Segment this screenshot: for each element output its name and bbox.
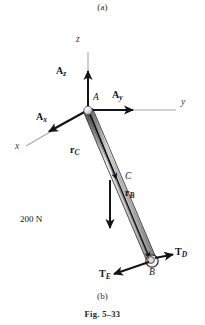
support-joint-A — [84, 106, 92, 114]
force-label-Ay-subscript: y — [119, 93, 122, 102]
point-label-B: B — [149, 268, 155, 278]
rod-edge-right — [90, 109, 155, 261]
point-label-A: A — [93, 93, 99, 103]
tension-label-TD: TD — [175, 247, 187, 258]
TD-arrow — [155, 255, 173, 259]
force-label-Ay: Ay — [112, 90, 123, 101]
z-axis-label: z — [76, 35, 80, 45]
vector-label-rC: rC — [70, 145, 79, 156]
tension-label-TE: TE — [99, 269, 111, 280]
applied-load-label: 200 N — [20, 215, 42, 224]
tension-label-TD-subscript: D — [182, 250, 187, 259]
point-label-C: C — [125, 172, 131, 182]
force-label-Ax: Ax — [36, 112, 47, 123]
joint-A-ball — [84, 106, 92, 114]
force-label-Az: Az — [56, 66, 66, 77]
cable-tension-TD — [155, 255, 173, 259]
TE-arrow — [114, 262, 149, 274]
vector-label-rC-subscript: C — [74, 148, 79, 157]
y-axis-label: y — [181, 98, 185, 108]
x-axis-label: x — [15, 142, 19, 152]
force-label-Az-subscript: z — [63, 69, 66, 78]
reaction-force-Ax — [49, 110, 88, 132]
vector-label-rB-subscript: B — [129, 191, 134, 200]
position-vector-rB — [90, 114, 150, 258]
Ax-arrow — [49, 110, 88, 132]
tension-label-TD-symbol: T — [175, 246, 182, 257]
vector-label-rB: rB — [125, 188, 134, 199]
cable-tension-TE — [114, 262, 149, 274]
tension-label-TE-symbol: T — [99, 268, 106, 279]
rod-edge-left — [86, 111, 151, 263]
force-label-Ax-subscript: x — [43, 115, 47, 124]
rod-edge-right-2 — [91, 109, 155, 261]
rB-arrow — [90, 114, 150, 258]
tension-label-TE-subscript: E — [106, 272, 111, 281]
figure-container: (a) (b) Fig. 5–33 — [0, 0, 205, 325]
support-collar-B — [146, 255, 158, 267]
